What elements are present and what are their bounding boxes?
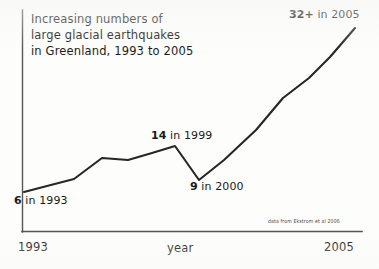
chart-title-line-2: large glacial earthquakes bbox=[31, 27, 193, 43]
x-axis-tick-end: 2005 bbox=[324, 240, 354, 254]
annotation-1993: 6 in 1993 bbox=[14, 194, 68, 207]
annotation-2000-value: 9 bbox=[190, 180, 198, 193]
annotation-1993-text: in 1993 bbox=[22, 194, 68, 207]
x-axis-title: year bbox=[167, 241, 193, 255]
annotation-1999: 14 in 1999 bbox=[151, 129, 212, 142]
annotation-2005: 32+ in 2005 bbox=[289, 8, 360, 21]
annotation-1999-text: in 1999 bbox=[167, 129, 213, 142]
annotation-1993-value: 6 bbox=[14, 194, 22, 207]
source-attribution: data from Ekstrom et al 2006 bbox=[268, 218, 340, 224]
annotation-1999-value: 14 bbox=[151, 129, 167, 142]
chart-title: Increasing numbers of large glacial eart… bbox=[31, 11, 193, 59]
chart-figure: Increasing numbers of large glacial eart… bbox=[0, 0, 379, 269]
annotation-2000: 9 in 2000 bbox=[190, 180, 244, 193]
annotation-2005-value: 32+ bbox=[289, 8, 314, 21]
chart-title-line-3: in Greenland, 1993 to 2005 bbox=[31, 43, 193, 59]
annotation-2005-text: in 2005 bbox=[314, 8, 360, 21]
chart-title-line-1: Increasing numbers of bbox=[31, 11, 193, 27]
annotation-2000-text: in 2000 bbox=[198, 180, 244, 193]
x-axis-tick-start: 1993 bbox=[18, 240, 48, 254]
